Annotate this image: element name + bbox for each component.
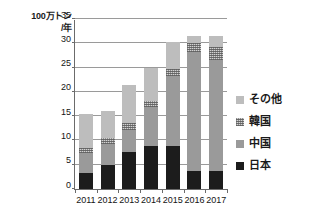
x-tick-label-2015: 2015 (163, 195, 183, 205)
stacked-bar[interactable] (79, 114, 93, 189)
bar-segment-china-2012 (101, 144, 115, 165)
bar-segment-other-2014 (144, 68, 158, 102)
legend-swatch-korea-icon (236, 118, 244, 126)
bar-segment-japan-2015 (166, 146, 180, 189)
x-tick-mark-2017 (227, 189, 228, 193)
bar-group-2016[interactable] (184, 20, 206, 189)
x-tick-label-2012: 2012 (98, 195, 118, 205)
y-tick-label-0: 0 (66, 180, 71, 189)
y-tick-label-20: 20 (61, 83, 71, 92)
stacked-bar[interactable] (209, 36, 223, 189)
bar-group-2012[interactable] (97, 20, 119, 189)
x-tick-mark-2011 (97, 189, 98, 193)
legend-item-japan[interactable]: 日本 (236, 160, 282, 171)
y-tick-label-10: 10 (61, 131, 71, 140)
bar-group-2015[interactable] (162, 20, 184, 189)
x-tick-mark-2015 (184, 189, 185, 193)
legend-item-china[interactable]: 中国 (236, 138, 282, 149)
bar-segment-japan-2011 (79, 173, 93, 190)
x-tick-mark-2012 (118, 189, 119, 193)
stacked-bar[interactable] (144, 68, 158, 189)
stacked-bar[interactable] (187, 36, 201, 189)
legend-swatch-japan-icon (236, 162, 244, 170)
stacked-bar[interactable] (166, 42, 180, 189)
bar-group-2013[interactable] (118, 20, 140, 189)
bar-segment-japan-2016 (187, 171, 201, 189)
bar-segment-other-2013 (122, 85, 136, 124)
bar-group-2017[interactable] (205, 20, 227, 189)
chart-legend: その他韓国中国日本 (236, 94, 282, 171)
stacked-bar-chart: 100万トン /年 05101520253035 201120122013201… (0, 0, 309, 221)
stacked-bar[interactable] (122, 85, 136, 189)
y-tick-label-30: 30 (61, 34, 71, 43)
bar-segment-japan-2017 (209, 171, 223, 189)
x-tick-label-2011: 2011 (76, 195, 95, 205)
legend-item-korea[interactable]: 韓国 (236, 116, 282, 127)
legend-label-korea: 韓国 (249, 116, 271, 127)
bar-segment-korea-2016 (187, 43, 201, 52)
bar-segment-japan-2014 (144, 146, 158, 189)
bar-segment-china-2015 (166, 76, 180, 146)
bar-segment-other-2016 (187, 36, 201, 43)
x-tick-mark-origin (75, 189, 76, 193)
legend-item-other[interactable]: その他 (236, 94, 282, 105)
bar-segment-korea-2015 (166, 69, 180, 77)
legend-label-japan: 日本 (249, 160, 271, 171)
bar-group-2011[interactable] (75, 20, 97, 189)
x-tick-mark-2016 (205, 189, 206, 193)
x-tick-label-2013: 2013 (119, 195, 139, 205)
bar-group-2014[interactable] (140, 20, 162, 189)
x-tick-label-2016: 2016 (184, 195, 204, 205)
bar-segment-japan-2012 (101, 165, 115, 189)
x-tick-label-2014: 2014 (141, 195, 161, 205)
y-tick-label-25: 25 (61, 59, 71, 68)
bar-segment-korea-2017 (209, 47, 223, 61)
bar-segment-china-2013 (122, 130, 136, 152)
legend-swatch-other-icon (236, 96, 244, 104)
y-tick-label-15: 15 (61, 107, 71, 116)
gridline-35 (75, 18, 227, 19)
bar-segment-china-2011 (79, 153, 93, 172)
y-tick-label-35: 35 (61, 10, 71, 19)
bar-segment-china-2016 (187, 52, 201, 171)
legend-label-china: 中国 (249, 138, 271, 149)
bar-segment-china-2017 (209, 60, 223, 171)
y-tick-label-5: 5 (66, 156, 71, 165)
plot-area: 05101520253035 2011201220132014201520162… (74, 20, 227, 190)
bar-segment-other-2015 (166, 42, 180, 69)
bar-segment-china-2014 (144, 107, 158, 146)
bar-segment-other-2017 (209, 36, 223, 47)
x-tick-mark-2014 (162, 189, 163, 193)
bar-segment-japan-2013 (122, 152, 136, 189)
y-tick-mark-35 (72, 18, 75, 19)
x-tick-label-2017: 2017 (206, 195, 226, 205)
stacked-bar[interactable] (101, 111, 115, 189)
legend-swatch-china-icon (236, 140, 244, 148)
bar-series-group (75, 20, 227, 189)
legend-label-other: その他 (249, 94, 282, 105)
y-axis-title-line-2: /年 (4, 22, 72, 34)
bar-segment-other-2012 (101, 111, 115, 138)
bar-segment-other-2011 (79, 114, 93, 148)
x-tick-mark-2013 (140, 189, 141, 193)
